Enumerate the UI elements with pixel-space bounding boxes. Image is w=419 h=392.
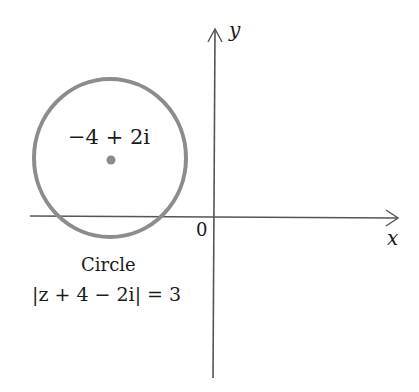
center-point	[107, 156, 116, 165]
center-label: −4 + 2i	[68, 125, 150, 149]
diagram-canvas	[0, 0, 419, 392]
y-axis	[213, 30, 215, 378]
caption-equation: |z + 4 − 2i| = 3	[32, 283, 181, 305]
origin-label: 0	[196, 219, 207, 240]
x-axis-label: x	[387, 226, 398, 250]
y-axis-label: y	[229, 18, 240, 42]
caption-title: Circle	[81, 254, 136, 275]
